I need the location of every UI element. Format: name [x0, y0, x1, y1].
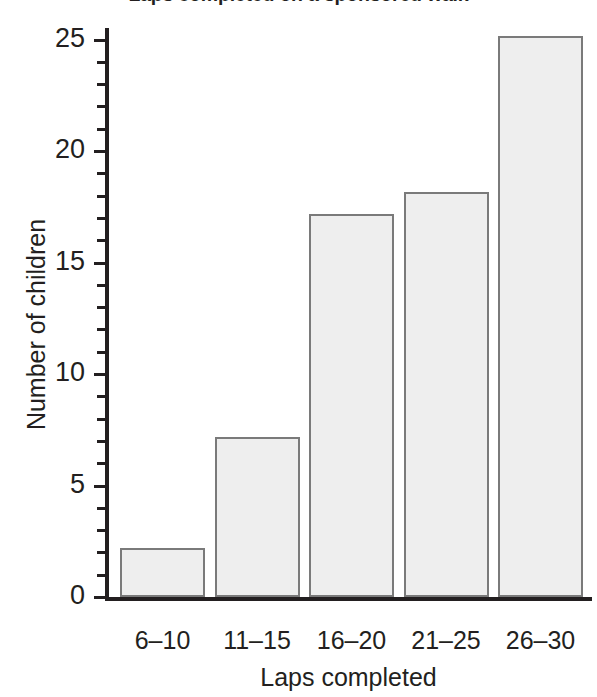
y-tick-minor	[97, 328, 105, 331]
y-tick-minor	[97, 507, 105, 510]
x-category-label: 26–30	[481, 628, 597, 653]
x-axis-title: Laps completed	[105, 665, 592, 690]
plot-area: 0510152025	[105, 28, 592, 601]
y-tick-minor	[97, 239, 105, 242]
y-tick-minor	[97, 105, 105, 108]
y-tick-minor	[97, 195, 105, 198]
bar	[309, 214, 394, 597]
y-tick-minor	[97, 462, 105, 465]
y-tick-label: 20	[15, 136, 85, 163]
y-tick-minor	[97, 551, 105, 554]
y-tick-major	[94, 373, 105, 376]
chart-title: Laps completed on a sponsored walk	[0, 0, 597, 8]
y-tick-minor	[97, 83, 105, 86]
y-tick-minor	[97, 574, 105, 577]
bar	[215, 437, 300, 597]
y-tick-minor	[97, 529, 105, 532]
y-tick-minor	[97, 440, 105, 443]
y-tick-major	[94, 150, 105, 153]
y-tick-minor	[97, 217, 105, 220]
y-tick-label: 15	[15, 248, 85, 275]
x-axis-line	[105, 597, 592, 601]
bar	[404, 192, 489, 597]
y-tick-minor	[97, 351, 105, 354]
y-tick-label: 10	[15, 359, 85, 386]
y-tick-minor	[97, 306, 105, 309]
y-tick-label: 0	[15, 582, 85, 609]
y-tick-minor	[97, 418, 105, 421]
y-tick-minor	[97, 395, 105, 398]
y-axis-line	[105, 28, 109, 601]
y-tick-major	[94, 485, 105, 488]
y-tick-minor	[97, 172, 105, 175]
y-tick-minor	[97, 284, 105, 287]
y-tick-major	[94, 596, 105, 599]
y-tick-minor	[97, 128, 105, 131]
bar-chart-figure: Laps completed on a sponsored walk Numbe…	[0, 0, 597, 697]
y-tick-label: 5	[15, 471, 85, 498]
y-tick-major	[94, 39, 105, 42]
y-axis-title: Number of children	[24, 175, 49, 475]
y-tick-minor	[97, 61, 105, 64]
y-tick-major	[94, 262, 105, 265]
bar	[498, 36, 583, 598]
y-tick-label: 25	[15, 25, 85, 52]
bar	[120, 548, 205, 597]
